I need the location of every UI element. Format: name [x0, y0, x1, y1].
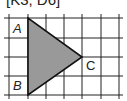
vertex-label-c: C	[86, 58, 95, 73]
grid-diagram: A B C	[0, 0, 127, 101]
vertex-label-a: A	[12, 21, 22, 36]
triangle-abc	[28, 18, 82, 95]
vertex-label-b: B	[13, 78, 22, 93]
